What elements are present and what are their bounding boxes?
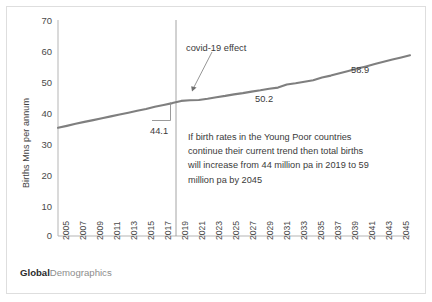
x-tick-label: 2031 [283, 221, 292, 240]
y-axis-title: Births Mns per annum [22, 98, 31, 188]
x-tick-label: 2019 [181, 221, 190, 240]
x-tick-label: 2005 [62, 221, 71, 240]
logo-light-text: Demographics [50, 267, 112, 278]
y-tick-label: 20 [30, 171, 52, 181]
x-tick-label: 2043 [385, 221, 394, 240]
y-tick-label: 40 [30, 109, 52, 119]
x-tick-label: 2017 [164, 221, 173, 240]
x-tick-label: 2027 [249, 221, 258, 240]
logo-global-demographics: GlobalDemographics [20, 267, 112, 278]
covid-annotation-label: covid-19 effect [186, 44, 246, 54]
x-tick-label: 2041 [368, 221, 377, 240]
covid-annotation-arrow-line [194, 52, 213, 88]
x-tick-label: 2009 [96, 221, 105, 240]
logo-bold-text: Global [20, 267, 50, 278]
y-tick-label: 10 [30, 202, 52, 212]
x-tick-label: 2037 [334, 221, 343, 240]
x-tick-label: 2033 [300, 221, 309, 240]
chart-figure: 70 60 50 40 30 20 10 0 Births Mns per an… [0, 0, 432, 302]
x-tick-label: 2023 [215, 221, 224, 240]
covid-annotation-arrowhead-icon [191, 86, 196, 91]
x-tick-label: 2045 [402, 221, 411, 240]
x-tick-label: 2029 [266, 221, 275, 240]
data-label-2045: 58.9 [351, 66, 369, 76]
y-tick-label: 70 [30, 16, 52, 26]
x-tick-label: 2013 [130, 221, 139, 240]
x-tick-label: 2025 [232, 221, 241, 240]
y-tick-label: 60 [30, 47, 52, 57]
x-tick-label: 2021 [198, 221, 207, 240]
data-label-2031: 50.2 [255, 95, 273, 105]
x-tick-label: 2035 [317, 221, 326, 240]
y-tick-label: 30 [30, 140, 52, 150]
x-tick-label: 2011 [113, 222, 122, 240]
y-tick-label: 0 [30, 231, 52, 241]
commentary-text: If birth rates in the Young Poor countri… [188, 130, 370, 187]
data-label-2019: 44.1 [150, 127, 168, 137]
y-tick-label: 50 [30, 78, 52, 88]
x-tick-label: 2039 [351, 221, 360, 240]
x-tick-label: 2015 [147, 221, 156, 240]
x-tick-label: 2007 [79, 221, 88, 240]
